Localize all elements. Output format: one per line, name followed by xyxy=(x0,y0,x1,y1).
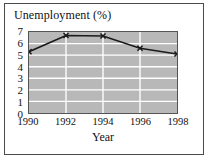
x-axis-tick-label: 1990 xyxy=(18,116,39,128)
y-axis-tick-label: 6 xyxy=(18,37,24,48)
y-axis-tick-label: 4 xyxy=(18,61,24,72)
x-axis-tick-label: 1992 xyxy=(55,116,76,128)
y-axis-tick-label: 7 xyxy=(18,26,24,37)
y-axis-tick-label: 2 xyxy=(18,85,24,96)
chart-title: Unemployment (%) xyxy=(14,9,111,22)
y-axis-tick-labels: 01234567 xyxy=(0,31,26,114)
y-axis-tick-label: 5 xyxy=(18,49,24,60)
x-axis-tick-label: 1998 xyxy=(168,116,189,128)
y-axis-tick-label: 1 xyxy=(18,97,24,108)
line-series-svg xyxy=(29,32,177,113)
chart-figure: Unemployment (%) 01234567 19901992199419… xyxy=(0,0,210,160)
x-axis-tick-labels: 19901992199419961998 xyxy=(28,116,178,130)
plot-area xyxy=(28,31,178,114)
x-axis-title: Year xyxy=(28,131,178,144)
x-axis-tick-label: 1994 xyxy=(93,116,114,128)
y-axis-tick-label: 3 xyxy=(18,73,24,84)
x-axis-tick-label: 1996 xyxy=(130,116,151,128)
